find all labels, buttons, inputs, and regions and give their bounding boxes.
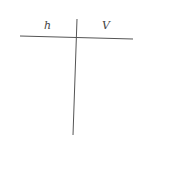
column-divider-line — [73, 19, 77, 135]
t-chart: h V — [0, 0, 175, 170]
column-header-v: V — [102, 20, 110, 31]
t-chart-lines — [0, 0, 175, 170]
column-header-h: h — [44, 20, 51, 31]
